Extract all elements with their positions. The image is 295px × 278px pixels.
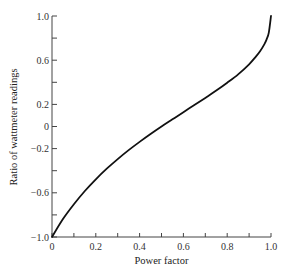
ratio-vs-power-factor-chart: 1.00.60.20−0.2−0.6−1.0 00.20.40.60.81.0 … (0, 0, 295, 278)
plot-area (52, 16, 271, 237)
y-axis: 1.00.60.20−0.2−0.6−1.0 (31, 11, 57, 243)
x-tick-label: 1.0 (265, 241, 278, 252)
x-tick-label: 0.2 (90, 241, 103, 252)
x-tick-label: 0.4 (133, 241, 146, 252)
x-tick-label: 0.6 (177, 241, 190, 252)
y-axis-label: Ratio of wattmeter readings (8, 69, 19, 186)
x-axis-label: Power factor (135, 255, 189, 266)
y-tick-label: −0.2 (31, 143, 49, 154)
y-tick-label: 0.2 (37, 99, 50, 110)
y-tick-label: 1.0 (37, 11, 50, 22)
x-tick-label: 0.8 (221, 241, 234, 252)
y-tick-label: 0 (44, 121, 49, 132)
x-axis: 00.20.40.60.81.0 (50, 233, 278, 252)
x-tick-label: 0 (50, 241, 55, 252)
y-tick-label: −1.0 (31, 232, 49, 243)
ratio-curve (52, 16, 271, 237)
y-tick-label: −0.6 (31, 187, 49, 198)
y-tick-label: 0.6 (37, 55, 50, 66)
